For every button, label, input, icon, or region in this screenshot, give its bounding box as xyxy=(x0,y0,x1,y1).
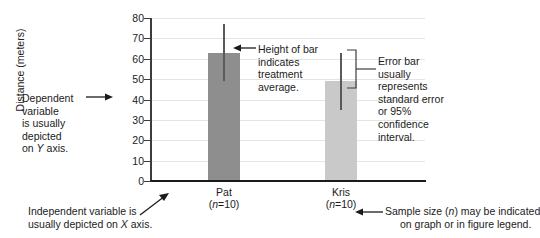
error-bar-pat xyxy=(223,24,225,81)
y-axis-symbol: Y xyxy=(37,142,44,154)
error-bar-note-line-5: or 95% xyxy=(378,105,444,118)
y-tick-label-50: 50 xyxy=(122,74,144,84)
bar-height-note-line-4: average. xyxy=(258,81,318,94)
error-bar-note-line-3: represents xyxy=(378,80,444,93)
y-tick-30 xyxy=(144,120,151,121)
independent-note-line-2: usually depicted on X axis. xyxy=(28,218,152,231)
dependent-note-line-5: on Y axis. xyxy=(22,142,73,155)
x-category-pat: Pat (n=10) xyxy=(179,186,269,210)
y-tick-label-80: 80 xyxy=(122,13,144,23)
x-category-kris-name: Kris xyxy=(296,186,386,198)
error-bar-note-line-6: confidence xyxy=(378,118,444,131)
y-tick-label-40: 40 xyxy=(122,95,144,105)
x-category-kris: Kris (n=10) xyxy=(296,186,386,210)
y-tick-40 xyxy=(144,100,151,101)
error-bar-note-line-2: usually xyxy=(378,68,444,81)
y-tick-50 xyxy=(144,79,151,80)
bar-height-note-line-3: treatment xyxy=(258,68,318,81)
gridline-10 xyxy=(150,161,425,162)
y-tick-label-80-wrap: 80 xyxy=(116,13,144,23)
x-axis-symbol: X xyxy=(121,218,128,230)
x-axis-line xyxy=(150,180,426,182)
y-tick-label-60-wrap: 60 xyxy=(116,54,144,64)
sample-size-note-line-2: on graph or in figure legend. xyxy=(385,218,540,231)
y-tick-20 xyxy=(144,140,151,141)
y-tick-label-10-wrap: 10 xyxy=(116,156,144,166)
y-tick-label-30-wrap: 30 xyxy=(116,115,144,125)
error-bar-kris xyxy=(340,53,342,110)
gridline-70 xyxy=(150,38,425,39)
y-tick-label-0-wrap: 0 xyxy=(116,176,144,186)
sample-size-pre: Sample size ( xyxy=(385,205,449,217)
bar-height-note: Height of bar indicates treatment averag… xyxy=(258,43,318,93)
error-bar-note: Error bar usually represents standard er… xyxy=(378,55,444,143)
y-tick-label-50-wrap: 50 xyxy=(116,74,144,84)
y-tick-60 xyxy=(144,59,151,60)
dependent-note-pre: on xyxy=(22,142,37,154)
y-tick-label-20-wrap: 20 xyxy=(116,135,144,145)
dependent-note-line-3: is usually xyxy=(22,117,73,130)
y-tick-80 xyxy=(144,18,151,19)
x-category-pat-n: (n=10) xyxy=(179,198,269,210)
bar-height-note-line-2: indicates xyxy=(258,56,318,69)
y-tick-label-70-wrap: 70 xyxy=(116,33,144,43)
n-value: =10) xyxy=(335,198,356,210)
y-tick-0 xyxy=(144,181,151,182)
dependent-note-line-2: variable xyxy=(22,105,73,118)
y-tick-10 xyxy=(144,161,151,162)
y-tick-label-30: 30 xyxy=(122,115,144,125)
y-tick-label-20: 20 xyxy=(122,135,144,145)
dependent-arrow-icon xyxy=(86,94,113,101)
error-bar-note-line-4: standard error xyxy=(378,93,444,106)
y-tick-label-40-wrap: 40 xyxy=(116,95,144,105)
sample-size-note-line-1: Sample size (n) may be indicated xyxy=(385,205,540,218)
x-category-kris-n: (n=10) xyxy=(296,198,386,210)
sample-size-post: ) may be indicated xyxy=(454,205,540,217)
dependent-variable-note: Dependent variable is usually depicted o… xyxy=(22,92,73,155)
independent-note-post: axis. xyxy=(128,218,153,230)
y-tick-70 xyxy=(144,38,151,39)
dependent-note-line-4: depicted xyxy=(22,130,73,143)
y-tick-label-10: 10 xyxy=(122,156,144,166)
x-category-pat-name: Pat xyxy=(179,186,269,198)
dependent-note-post: axis. xyxy=(44,142,69,154)
independent-note-line-1: Independent variable is xyxy=(28,205,152,218)
y-tick-label-0: 0 xyxy=(122,176,144,186)
sample-size-note: Sample size (n) may be indicated on grap… xyxy=(385,205,540,230)
independent-variable-note: Independent variable is usually depicted… xyxy=(28,205,152,230)
n-value: =10) xyxy=(218,198,239,210)
dependent-note-line-1: Dependent xyxy=(22,92,73,105)
y-tick-label-70: 70 xyxy=(122,33,144,43)
y-tick-label-60: 60 xyxy=(122,54,144,64)
error-bar-note-line-7: interval. xyxy=(378,131,444,144)
independent-note-pre: usually depicted on xyxy=(28,218,121,230)
error-bar-note-line-1: Error bar xyxy=(378,55,444,68)
gridline-80 xyxy=(150,18,425,19)
bar-height-note-line-1: Height of bar xyxy=(258,43,318,56)
